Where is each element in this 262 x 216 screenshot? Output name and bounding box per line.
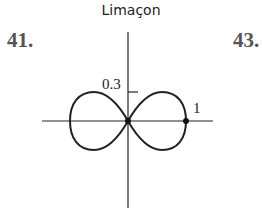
x-point-label: 1 (193, 100, 201, 117)
y-tick-label: 0.3 (102, 76, 121, 93)
origin-point (125, 118, 131, 124)
point-one (183, 118, 189, 124)
curve-plot (0, 0, 262, 216)
